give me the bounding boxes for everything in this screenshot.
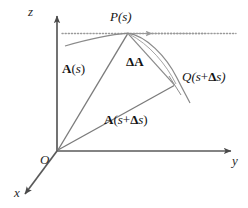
point-Q-prefix: Q( — [182, 69, 196, 84]
point-Q-suffix: ) — [221, 69, 225, 84]
vector-A-sds-symbol: A — [104, 112, 113, 127]
vector-A-sds-close: ) — [143, 112, 147, 127]
z-axis-label: z — [28, 5, 33, 18]
point-label-Q: Q(s+Δs) — [182, 70, 226, 83]
point-label-P: P(s) — [110, 10, 132, 23]
q-point-tick — [169, 76, 181, 95]
vector-delta-A-symbol: A — [134, 54, 143, 69]
vector-label-A-s-plus-ds: A(s+Δs) — [104, 113, 148, 126]
vector-delta-A-delta: Δ — [126, 54, 134, 69]
diagram-canvas — [0, 0, 248, 208]
vector-diagram-figure: z y x O P(s) Q(s+Δs) A(s) ΔA A(s+Δs) — [0, 0, 248, 208]
vector-A-s — [58, 34, 127, 150]
vector-label-delta-A: ΔA — [126, 55, 144, 68]
x-axis-label: x — [14, 186, 20, 199]
point-P-suffix: ) — [127, 9, 131, 24]
y-axis-label: y — [232, 154, 238, 167]
vector-A-s-close: ) — [81, 61, 85, 76]
vector-label-A-s: A(s) — [62, 62, 85, 75]
origin-label: O — [40, 153, 49, 166]
point-P-prefix: P( — [110, 9, 122, 24]
vector-A-s-symbol: A — [62, 61, 71, 76]
